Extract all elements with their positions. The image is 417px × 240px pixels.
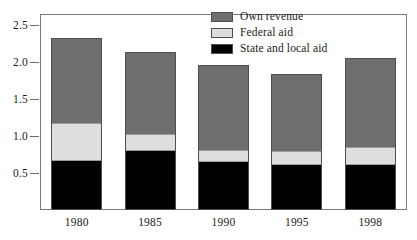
bar-stack[interactable] xyxy=(271,74,322,210)
legend-item-label: Federal aid xyxy=(240,26,293,39)
y-axis-tick-mark xyxy=(30,99,39,100)
bar-segment-federal[interactable] xyxy=(126,134,175,151)
bar-segment-state[interactable] xyxy=(272,165,321,209)
y-axis-tick-mark xyxy=(30,25,39,26)
y-axis-tick: 2.0 xyxy=(0,55,40,69)
legend-color-swatch xyxy=(211,44,233,54)
y-axis: 0.51.01.52.02.5 xyxy=(0,0,40,240)
chart-legend: Own revenueFederal aidState and local ai… xyxy=(211,9,327,57)
y-axis-tick-mark xyxy=(30,173,39,174)
x-axis-tick-label: 1980 xyxy=(40,213,113,231)
x-axis: 19801985199019951998 xyxy=(40,213,407,235)
stacked-bar-chart: 0.51.01.52.02.5 19801985199019951998 Own… xyxy=(0,0,417,240)
bar-segment-federal[interactable] xyxy=(52,123,101,161)
y-axis-tick-label: 0.5 xyxy=(13,166,28,180)
bar-segment-own[interactable] xyxy=(272,75,321,151)
legend-item[interactable]: Federal aid xyxy=(211,25,327,40)
y-axis-tick-label: 1.5 xyxy=(13,92,28,106)
legend-item[interactable]: Own revenue xyxy=(211,9,327,24)
bar-segment-federal[interactable] xyxy=(346,147,395,165)
bar-group[interactable] xyxy=(345,14,396,210)
legend-color-swatch xyxy=(211,12,233,22)
y-axis-tick: 0.5 xyxy=(0,166,40,180)
bar-segment-own[interactable] xyxy=(199,66,248,150)
bar-segment-state[interactable] xyxy=(126,151,175,209)
y-axis-tick: 1.5 xyxy=(0,92,40,106)
legend-item-label: Own revenue xyxy=(240,10,303,23)
bar-segment-state[interactable] xyxy=(52,161,101,209)
y-axis-tick-label: 2.5 xyxy=(13,18,28,32)
legend-item[interactable]: State and local aid xyxy=(211,41,327,56)
bar-segment-federal[interactable] xyxy=(199,150,248,162)
y-axis-tick-mark xyxy=(30,136,39,137)
legend-item-label: State and local aid xyxy=(240,42,327,55)
y-axis-tick-label: 2.0 xyxy=(13,55,28,69)
bar-stack[interactable] xyxy=(125,52,176,210)
bar-group[interactable] xyxy=(51,14,102,210)
y-axis-tick: 2.5 xyxy=(0,18,40,32)
bar-segment-own[interactable] xyxy=(126,53,175,133)
y-axis-tick-mark xyxy=(30,62,39,63)
bar-segment-own[interactable] xyxy=(346,59,395,147)
y-axis-tick-label: 1.0 xyxy=(13,129,28,143)
bar-segment-own[interactable] xyxy=(52,39,101,123)
bar-segment-state[interactable] xyxy=(346,165,395,209)
x-axis-tick-label: 1998 xyxy=(334,213,407,231)
x-axis-tick-label: 1985 xyxy=(113,213,186,231)
x-axis-tick-label: 1990 xyxy=(187,213,260,231)
legend-color-swatch xyxy=(211,28,233,38)
bar-segment-state[interactable] xyxy=(199,162,248,209)
bar-stack[interactable] xyxy=(51,38,102,210)
bar-group[interactable] xyxy=(125,14,176,210)
y-axis-tick: 1.0 xyxy=(0,129,40,143)
bar-stack[interactable] xyxy=(198,65,249,210)
x-axis-tick-label: 1995 xyxy=(260,213,333,231)
bar-segment-federal[interactable] xyxy=(272,151,321,166)
bar-stack[interactable] xyxy=(345,58,396,210)
